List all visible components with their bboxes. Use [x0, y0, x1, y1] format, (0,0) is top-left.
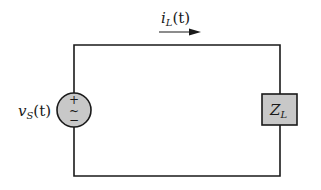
current-label: iL(t) [161, 9, 190, 28]
ac-voltage-source: + ~ − [57, 93, 91, 127]
circuit-diagram: iL(t) + ~ − vS(t) ZL [0, 0, 321, 190]
top-wire [74, 45, 280, 94]
wires [74, 45, 280, 176]
source-minus-sign: − [69, 113, 79, 127]
source-label: vS(t) [18, 102, 51, 121]
bottom-wire [74, 125, 280, 176]
current-arrow-icon [159, 29, 201, 36]
load-impedance: ZL [262, 94, 297, 125]
